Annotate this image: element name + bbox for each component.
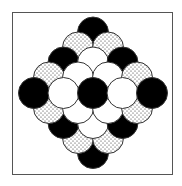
- black-circle: [78, 78, 109, 109]
- circle-diamond-figure: [0, 0, 182, 186]
- white-circle: [107, 78, 138, 109]
- white-circle: [48, 78, 79, 109]
- black-circle: [19, 78, 50, 109]
- black-circle: [137, 78, 168, 109]
- circle-group: [19, 17, 168, 169]
